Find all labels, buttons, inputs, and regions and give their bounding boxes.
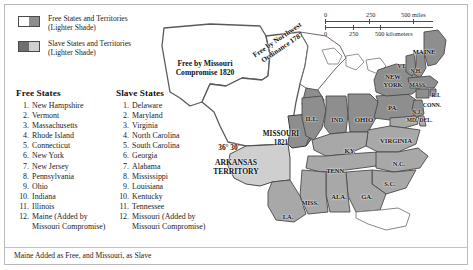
map-label-pennsylvania: PA. bbox=[388, 104, 398, 111]
state-connecticut bbox=[416, 89, 429, 98]
map-label-line1: MISSOURI bbox=[263, 130, 299, 139]
list-item-number: 12. bbox=[16, 212, 29, 222]
map-label-line1: ARKANSAS bbox=[213, 158, 259, 167]
list-item: 5.Connecticut bbox=[16, 141, 116, 151]
list-item-label: New Hampshire bbox=[32, 101, 84, 111]
map-label-maryland: MD. bbox=[407, 117, 418, 123]
map-label-louisiana: LA. bbox=[283, 213, 293, 220]
map-label-maine: MAINE bbox=[413, 48, 436, 55]
legend-item-free: Free States and Territories (Lighter Sha… bbox=[18, 14, 131, 32]
slave-swatch-icon bbox=[18, 41, 40, 52]
list-item-label: Maine (Added by bbox=[32, 212, 88, 222]
map-svg bbox=[150, 6, 470, 246]
map-label-line2: 1821 bbox=[263, 139, 299, 148]
list-item-number: 3. bbox=[116, 121, 129, 131]
list-item-number: 8. bbox=[16, 172, 29, 182]
list-item-label: New Jersey bbox=[32, 162, 69, 172]
map-label-alabama: ALA. bbox=[331, 193, 347, 200]
list-item: 4.Rhode Island bbox=[16, 131, 116, 141]
map-label-new-hampshire: N.H. bbox=[410, 68, 421, 74]
list-item: 1.New Hampshire bbox=[16, 101, 116, 111]
map-label-vermont: VT. bbox=[398, 63, 407, 69]
map-label-north-carolina: N.C. bbox=[393, 160, 405, 167]
legend-item-slave: Slave States and Territories (Lighter Sh… bbox=[18, 39, 131, 57]
map-label-line1: 36° 30' bbox=[218, 143, 240, 152]
map-label-kentucky: KY. bbox=[345, 147, 356, 154]
list-item-number: 4. bbox=[16, 131, 29, 141]
state-ohio bbox=[348, 94, 378, 132]
list-item-label: Massachusetts bbox=[32, 121, 78, 131]
list-item-number: 11. bbox=[16, 202, 29, 212]
list-item-number: 2. bbox=[116, 111, 129, 121]
map-label-virginia: VIRGINIA bbox=[380, 137, 412, 144]
map-label-rhode-island: R.I. bbox=[431, 92, 440, 98]
list-item-number: 12. bbox=[116, 212, 129, 222]
legend-slave-line1: Slave States and Territories bbox=[48, 39, 131, 48]
list-item-label: Rhode Island bbox=[32, 131, 74, 141]
list-item-label: Pennsylvania bbox=[32, 172, 74, 182]
state-new-hampshire bbox=[414, 52, 426, 78]
list-item-number: 10. bbox=[116, 192, 129, 202]
map-label-line1: Free by Missouri bbox=[176, 59, 235, 68]
legend-item-slave-label: Slave States and Territories (Lighter Sh… bbox=[48, 39, 131, 57]
list-item-number: 3. bbox=[16, 121, 29, 131]
map-label-missouri-1821: MISSOURI1821 bbox=[263, 130, 299, 148]
map-figure: Free States and Territories (Lighter Sha… bbox=[0, 0, 473, 270]
list-item-label: Illinois bbox=[32, 202, 54, 212]
legend-slave-line2: (Lighter Shade) bbox=[48, 48, 131, 57]
list-item-label: New York bbox=[32, 151, 64, 161]
list-item: 7.New Jersey bbox=[16, 162, 116, 172]
caption-divider bbox=[5, 247, 468, 248]
map-label-massachusetts: MASS. bbox=[410, 82, 427, 88]
list-item-number: 6. bbox=[16, 151, 29, 161]
list-item-label: Connecticut bbox=[32, 141, 70, 151]
list-item: 11.Illinois bbox=[16, 202, 116, 212]
list-item-number: 1. bbox=[116, 101, 129, 111]
map-label-south-carolina: S.C. bbox=[384, 180, 395, 187]
free-swatch-icon bbox=[18, 16, 40, 27]
list-item-number: 9. bbox=[116, 182, 129, 192]
figure-caption: Maine Added as Free, and Missouri, as Sl… bbox=[14, 251, 151, 260]
list-item-number: 11. bbox=[116, 202, 129, 212]
list-item: 12.Maine (Added by bbox=[16, 212, 116, 222]
list-item: 10.Indiana bbox=[16, 192, 116, 202]
legend-item-free-label: Free States and Territories (Lighter Sha… bbox=[48, 14, 128, 32]
map-label-connecticut: CONN. bbox=[423, 102, 442, 108]
list-item: 6.New York bbox=[16, 151, 116, 161]
list-item-number: 7. bbox=[116, 162, 129, 172]
map-label-georgia: GA. bbox=[361, 193, 373, 200]
list-item: 8.Pennsylvania bbox=[16, 172, 116, 182]
map-label-line2: Compromise 1820 bbox=[176, 68, 235, 77]
legend-free-line2: (Lighter Shade) bbox=[48, 23, 128, 32]
map-label-arkansas-territory: ARKANSASTERRITORY bbox=[213, 158, 259, 176]
map-label-new-york: NEW bbox=[385, 73, 400, 80]
list-item-label: Vermont bbox=[32, 111, 59, 121]
list-item-number: 7. bbox=[16, 162, 29, 172]
map-label-line2: TERRITORY bbox=[213, 167, 259, 176]
list-item-label: Ohio bbox=[32, 182, 48, 192]
list-item-number: 10. bbox=[16, 192, 29, 202]
list-item-number: 4. bbox=[116, 131, 129, 141]
map-label-ohio: OHIO bbox=[355, 116, 374, 123]
map-label-free-missouri-compromise: Free by MissouriCompromise 1820 bbox=[176, 59, 235, 77]
list-item: 9.Ohio bbox=[16, 182, 116, 192]
free-states-title: Free States bbox=[16, 88, 116, 98]
list-item-number: 1. bbox=[16, 101, 29, 111]
map-label-new-york-2: YORK bbox=[383, 81, 402, 88]
list-item-label: Indiana bbox=[32, 192, 56, 202]
list-item-number: 6. bbox=[116, 151, 129, 161]
legend: Free States and Territories (Lighter Sha… bbox=[18, 14, 131, 64]
map-label-illinois: ILL. bbox=[305, 115, 318, 122]
legend-free-line1: Free States and Territories bbox=[48, 14, 128, 23]
map-label-parallel-36-30: 36° 30' bbox=[218, 143, 240, 152]
list-item: 3.Massachusetts bbox=[16, 121, 116, 131]
map-label-indiana: IND. bbox=[331, 116, 344, 123]
list-item-number: 2. bbox=[16, 111, 29, 121]
map-label-mississippi: MISS. bbox=[301, 199, 318, 206]
list-item: 2.Vermont bbox=[16, 111, 116, 121]
map-label-delaware: DEL. bbox=[420, 117, 433, 123]
list-item-continuation: Missouri Compromise) bbox=[16, 222, 116, 232]
map-canvas: Free by MissouriCompromise 1820Free by N… bbox=[150, 6, 470, 246]
list-item-number: 8. bbox=[116, 172, 129, 182]
list-item-continuation-label: Missouri Compromise) bbox=[32, 222, 105, 232]
